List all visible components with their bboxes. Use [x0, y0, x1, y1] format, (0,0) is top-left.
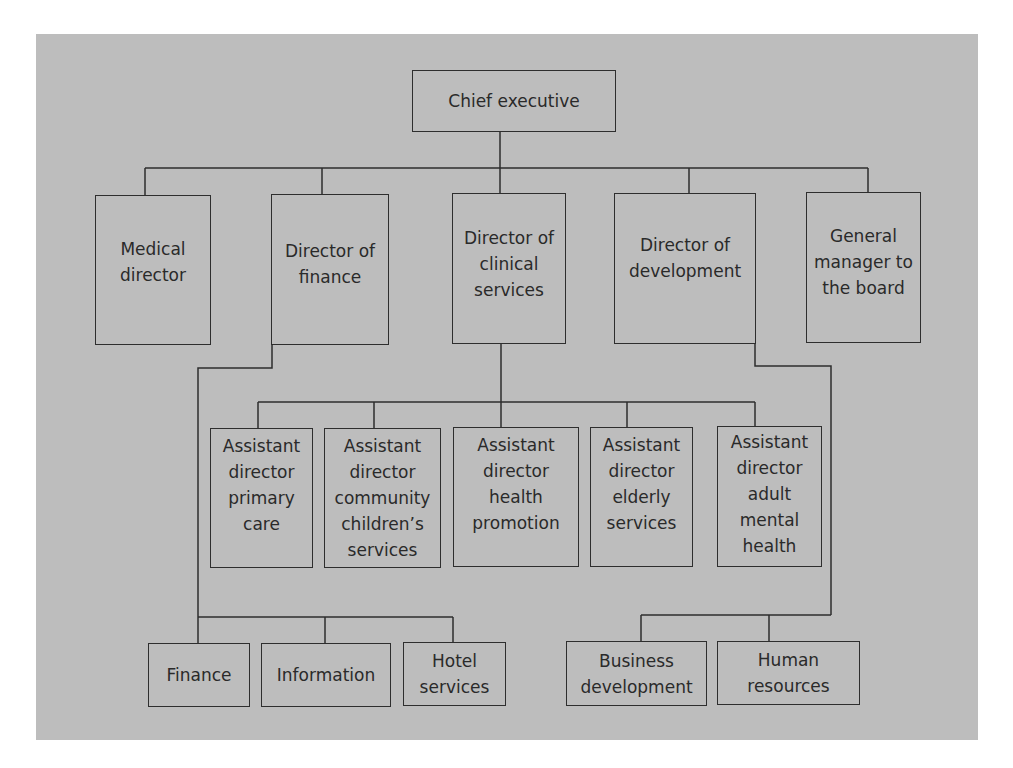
node-ad-adult-mental-health: Assistant director adult mental health [717, 426, 822, 567]
node-director-of-finance: Director of finance [271, 194, 389, 345]
node-general-manager: General manager to the board [806, 192, 921, 343]
node-label: Medical director [120, 236, 186, 288]
node-label: Assistant director primary care [223, 433, 300, 537]
node-label: Hotel services [420, 648, 490, 700]
node-business-development: Business development [566, 641, 707, 706]
node-director-of-development: Director of development [614, 193, 756, 344]
node-label: Assistant director elderly services [603, 432, 680, 536]
node-chief-executive: Chief executive [412, 70, 616, 132]
node-label: Director of development [629, 232, 741, 284]
node-label: Assistant director adult mental health [731, 429, 808, 559]
node-label: Chief executive [448, 88, 579, 114]
node-label: Assistant director community children’s … [335, 433, 431, 563]
node-label: General manager to the board [814, 223, 913, 301]
node-label: Finance [166, 662, 231, 688]
node-label: Assistant director health promotion [472, 432, 559, 536]
node-ad-primary-care: Assistant director primary care [210, 428, 313, 568]
node-label: Director of clinical services [464, 225, 554, 303]
node-label: Human resources [747, 647, 829, 699]
node-hotel-services: Hotel services [403, 642, 506, 706]
node-ad-community-childrens-services: Assistant director community children’s … [324, 428, 441, 568]
node-ad-health-promotion: Assistant director health promotion [453, 427, 579, 567]
node-label: Director of finance [285, 238, 375, 290]
node-finance: Finance [148, 643, 250, 707]
node-label: Business development [580, 648, 692, 700]
node-information: Information [261, 643, 391, 707]
node-medical-director: Medical director [95, 195, 211, 345]
node-label: Information [277, 662, 375, 688]
node-ad-elderly-services: Assistant director elderly services [590, 427, 693, 567]
node-human-resources: Human resources [717, 641, 860, 705]
node-director-of-clinical-services: Director of clinical services [452, 193, 566, 344]
